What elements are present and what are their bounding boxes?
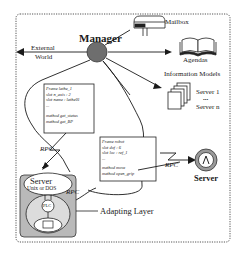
- server-right-label: Server: [194, 174, 218, 183]
- agendas-book-icon: [180, 38, 216, 56]
- manager-node-icon: [87, 42, 107, 62]
- diagram-canvas: [0, 0, 244, 265]
- external-world-label-line2: World: [35, 54, 52, 61]
- information-models-label: Information Models: [164, 71, 220, 78]
- server-ellipsis: •••: [203, 97, 208, 102]
- mailbox-label: Mailbox: [165, 19, 189, 26]
- adapting-server-subtitle: Unix or DOS: [27, 186, 56, 192]
- frame-lathe-line: method get_BP: [46, 119, 80, 125]
- rpc-label-right: RPC: [165, 162, 178, 169]
- agendas-label: Agendas: [183, 57, 208, 64]
- machine-device-icon: [43, 221, 53, 228]
- frame-robot-line: method open_grip: [102, 171, 134, 177]
- server-n-label: Server n: [196, 104, 220, 111]
- arrow-external-world-icon: [16, 48, 24, 56]
- external-world-label-line1: External: [31, 45, 55, 52]
- frame-lathe-content: Frame lathe_1 slot n_axis : 2 slot name …: [46, 86, 80, 124]
- server-globe-icon: [195, 149, 217, 171]
- frame-lathe-line: slot name : lathe01: [46, 97, 80, 103]
- arrow-agendas-icon: [165, 49, 172, 55]
- rpc-label-left: RPC: [40, 146, 53, 153]
- information-models-stack-icon: [168, 83, 190, 109]
- frame-lathe-line: method get_status: [46, 113, 80, 119]
- rpc-label-bottom: RPC: [66, 189, 79, 196]
- rpc-arrow-icon: [42, 162, 49, 170]
- adapting-layer-label: Adapting Layer: [100, 207, 154, 216]
- mailbox-icon: [134, 16, 165, 36]
- plc-label: PLC: [43, 204, 51, 209]
- server-1-label: Server 1: [196, 89, 220, 96]
- frame-robot-content: Frame robot slot dof : 6 slot loc : ref_…: [102, 139, 134, 176]
- manager-label: Manager: [79, 33, 122, 44]
